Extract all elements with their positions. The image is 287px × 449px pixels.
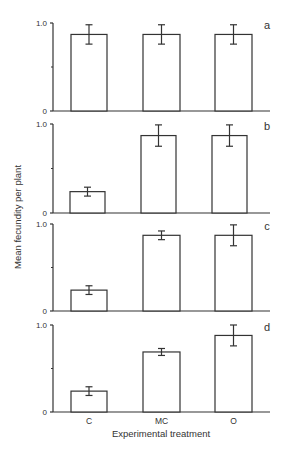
y-tick-label-zero: 0 bbox=[43, 307, 48, 316]
fecundity-bar-chart: 1.00a1.00b1.00c1.00dCMCOExperimental tre… bbox=[0, 0, 287, 449]
bar-mc bbox=[141, 136, 176, 213]
x-tick-label: MC bbox=[155, 416, 168, 426]
panel-label: d bbox=[264, 321, 270, 333]
panel-label: b bbox=[264, 120, 270, 132]
panel-label: a bbox=[264, 19, 271, 31]
bar-c bbox=[71, 34, 107, 111]
panel-label: c bbox=[264, 220, 270, 232]
bar-mc bbox=[143, 235, 180, 311]
y-tick-label-top: 1.0 bbox=[36, 220, 48, 229]
y-tick-label-top: 1.0 bbox=[36, 19, 48, 28]
y-tick-label-zero: 0 bbox=[43, 209, 48, 218]
x-tick-label: O bbox=[230, 416, 237, 426]
bar-o bbox=[215, 34, 252, 111]
bar-o bbox=[215, 235, 252, 311]
bar-mc bbox=[143, 352, 180, 412]
y-tick-label-top: 1.0 bbox=[36, 120, 48, 129]
x-axis-title: Experimental treatment bbox=[112, 428, 211, 439]
y-tick-label-zero: 0 bbox=[43, 107, 48, 116]
y-tick-label-zero: 0 bbox=[43, 408, 48, 417]
bar-o bbox=[212, 136, 247, 213]
bar-o bbox=[215, 335, 252, 412]
y-axis-title: Mean fecundity per plant bbox=[12, 165, 23, 269]
y-tick-label-top: 1.0 bbox=[36, 321, 48, 330]
x-tick-label: C bbox=[86, 416, 92, 426]
bar-mc bbox=[143, 34, 180, 111]
